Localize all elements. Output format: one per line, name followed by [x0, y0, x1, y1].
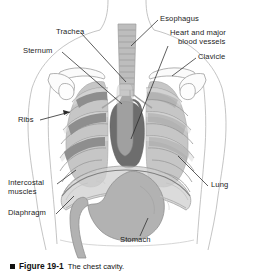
leader-ribs-group — [40, 110, 70, 120]
figure-caption: Figure 19-1 The chest cavity. — [10, 261, 124, 271]
label-esophagus: Esophagus — [160, 15, 199, 24]
label-ribs: Ribs — [18, 116, 34, 125]
torso-right-outline — [197, 74, 206, 244]
label-diaphragm: Diaphragm — [8, 209, 46, 218]
label-trachea: Trachea — [56, 28, 84, 37]
label-stomach: Stomach — [120, 236, 151, 245]
label-intercostal-line2: muscles — [8, 188, 68, 197]
label-heart-line2: blood vessels — [170, 38, 250, 47]
caption-figure-title: The chest cavity. — [68, 262, 124, 271]
label-intercostal-muscles: Intercostal muscles — [8, 179, 68, 196]
label-clavicle: Clavicle — [198, 53, 225, 62]
caption-bullet-icon — [10, 264, 15, 269]
humerus-head-left — [59, 83, 74, 99]
label-sternum: Sternum — [23, 47, 52, 56]
ribs-arrowhead — [63, 110, 70, 115]
sternum-bone — [117, 84, 133, 156]
figure-container: Trachea Esophagus Heart and major blood … — [0, 0, 253, 276]
caption-figure-number: Figure 19-1 — [19, 261, 64, 271]
label-lung: Lung — [211, 181, 228, 190]
label-heart-and-vessels: Heart and major blood vessels — [170, 29, 250, 46]
humerus-head-right — [180, 83, 195, 99]
hip-right-outline — [208, 196, 218, 250]
sternum-group — [117, 84, 133, 156]
hip-left-outline — [36, 196, 46, 250]
torso-left-outline — [48, 74, 57, 244]
